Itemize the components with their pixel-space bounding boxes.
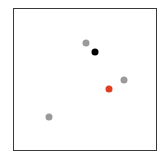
black-dot	[92, 49, 99, 56]
gray-dot-2	[121, 77, 128, 84]
gray-dot-3	[46, 114, 53, 121]
gray-dot-1	[83, 40, 90, 47]
red-dot	[106, 86, 113, 93]
plot-frame	[13, 8, 157, 151]
